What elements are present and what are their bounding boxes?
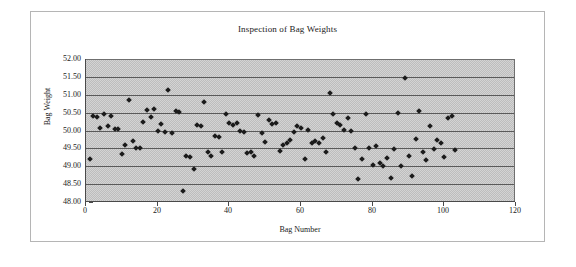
x-tick-label: 120 bbox=[509, 207, 521, 215]
plot-border-right bbox=[514, 59, 515, 201]
x-tick-label: 0 bbox=[83, 207, 87, 215]
data-point bbox=[216, 134, 222, 140]
data-point bbox=[352, 145, 358, 151]
gridline bbox=[86, 77, 515, 78]
data-point bbox=[97, 125, 103, 131]
data-point bbox=[409, 173, 415, 179]
data-point bbox=[363, 111, 369, 117]
data-point bbox=[262, 139, 268, 145]
x-tick-mark bbox=[85, 202, 86, 206]
data-point bbox=[155, 128, 161, 134]
y-tick-label: 52.00 bbox=[41, 55, 81, 63]
data-point bbox=[144, 107, 150, 113]
data-point bbox=[391, 147, 397, 153]
data-point bbox=[166, 87, 172, 93]
data-point bbox=[320, 135, 326, 141]
x-tick-label: 100 bbox=[437, 207, 449, 215]
data-point bbox=[241, 129, 247, 135]
data-point bbox=[223, 111, 229, 117]
data-point bbox=[406, 153, 412, 159]
y-tick-label: 51.00 bbox=[41, 91, 81, 99]
data-point bbox=[130, 138, 136, 144]
y-tick-label: 48.00 bbox=[41, 198, 81, 206]
chart-frame: Inspection of Bag Weights Bag Weight 48.… bbox=[30, 11, 545, 242]
data-point bbox=[219, 149, 225, 155]
x-tick-mark bbox=[515, 202, 516, 206]
y-axis-tick-labels: 48.0048.5049.0049.5050.0050.5051.0051.50… bbox=[39, 59, 81, 202]
x-tick-label: 80 bbox=[368, 207, 376, 215]
data-point bbox=[398, 163, 404, 169]
data-point bbox=[201, 99, 207, 105]
x-axis-tick-labels: 020406080100120 bbox=[85, 207, 515, 221]
y-tick-label: 48.50 bbox=[41, 180, 81, 188]
data-point bbox=[119, 151, 125, 157]
data-point bbox=[431, 147, 437, 153]
y-tick-label: 51.50 bbox=[41, 73, 81, 81]
data-point bbox=[137, 146, 143, 152]
gridline bbox=[86, 166, 515, 167]
gridline bbox=[86, 184, 515, 185]
data-point bbox=[87, 156, 93, 162]
data-point bbox=[151, 106, 157, 112]
plot-area bbox=[85, 59, 515, 202]
chart-screenshot: Inspection of Bag Weights Bag Weight 48.… bbox=[0, 0, 576, 267]
data-point bbox=[105, 123, 111, 129]
data-point bbox=[298, 125, 304, 131]
data-point bbox=[259, 130, 265, 136]
data-point bbox=[180, 188, 186, 194]
y-tick-label: 50.00 bbox=[41, 127, 81, 135]
data-point bbox=[424, 157, 430, 163]
x-tick-mark bbox=[228, 202, 229, 206]
data-point bbox=[381, 163, 387, 169]
data-point bbox=[413, 136, 419, 142]
data-point bbox=[158, 121, 164, 127]
x-tick-mark bbox=[443, 202, 444, 206]
data-point bbox=[384, 155, 390, 161]
data-point bbox=[427, 123, 433, 129]
data-point bbox=[323, 149, 329, 155]
x-tick-label: 40 bbox=[224, 207, 232, 215]
gridline bbox=[86, 148, 515, 149]
data-point bbox=[148, 114, 154, 120]
data-point bbox=[198, 123, 204, 129]
x-tick-mark bbox=[300, 202, 301, 206]
data-point bbox=[176, 109, 182, 115]
data-point bbox=[438, 140, 444, 146]
data-point bbox=[348, 128, 354, 134]
data-point bbox=[420, 149, 426, 155]
data-point bbox=[126, 97, 132, 103]
y-tick-mark bbox=[89, 202, 93, 203]
data-point bbox=[191, 166, 197, 172]
data-point bbox=[101, 111, 107, 117]
x-tick-label: 20 bbox=[153, 207, 161, 215]
chart-title: Inspection of Bag Weights bbox=[31, 24, 544, 34]
data-point bbox=[345, 115, 351, 121]
plot-border-top bbox=[86, 59, 515, 60]
data-point bbox=[330, 112, 336, 118]
data-point bbox=[140, 119, 146, 125]
data-point bbox=[94, 114, 100, 120]
data-point bbox=[388, 176, 394, 182]
data-point bbox=[366, 146, 372, 152]
data-point bbox=[302, 156, 308, 162]
y-tick-label: 50.50 bbox=[41, 109, 81, 117]
data-point bbox=[252, 153, 258, 159]
data-point bbox=[355, 176, 361, 182]
data-point bbox=[209, 153, 215, 159]
x-tick-mark bbox=[372, 202, 373, 206]
data-point bbox=[162, 129, 168, 135]
gridline bbox=[86, 95, 515, 96]
data-point bbox=[441, 154, 447, 160]
y-tick-label: 49.50 bbox=[41, 144, 81, 152]
data-point bbox=[291, 129, 297, 135]
y-tick-label: 49.00 bbox=[41, 162, 81, 170]
data-point bbox=[316, 140, 322, 146]
data-point bbox=[359, 156, 365, 162]
x-tick-mark bbox=[157, 202, 158, 206]
data-point bbox=[187, 154, 193, 160]
x-tick-label: 60 bbox=[296, 207, 304, 215]
data-point bbox=[395, 110, 401, 116]
data-point bbox=[273, 120, 279, 126]
x-axis-title: Bag Number bbox=[85, 225, 515, 234]
data-point bbox=[402, 75, 408, 81]
